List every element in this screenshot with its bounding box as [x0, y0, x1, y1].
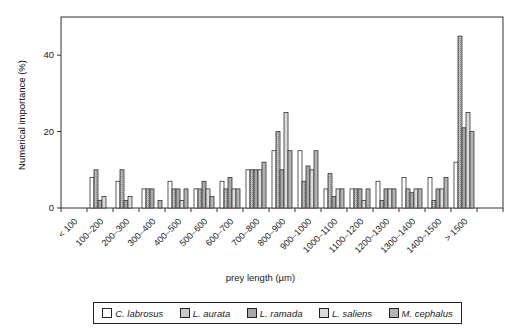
svg-text:0: 0	[49, 202, 54, 213]
bar	[454, 162, 458, 208]
bar	[410, 193, 414, 208]
bar	[358, 189, 362, 208]
legend: C. labrosusL. aurataL. ramadaL. saliensM…	[93, 302, 462, 324]
bar	[236, 189, 240, 208]
bar	[436, 189, 440, 208]
bar	[402, 177, 406, 208]
y-axis-label: Numerical importance (%)	[16, 60, 27, 170]
legend-label: L. aurata	[193, 308, 231, 319]
bar-chart: 02040 < 100100–200200–300300–400400–5005…	[0, 0, 521, 335]
bar	[94, 170, 98, 208]
bar	[150, 189, 154, 208]
bar	[98, 200, 102, 208]
bar	[228, 177, 232, 208]
legend-swatch	[389, 308, 399, 318]
svg-text:> 1500: > 1500	[443, 216, 470, 243]
legend-label: L. saliens	[332, 308, 372, 319]
bar	[298, 151, 302, 208]
bar	[184, 189, 188, 208]
bar	[288, 151, 292, 208]
bar	[198, 189, 202, 208]
bar	[172, 189, 176, 208]
bar	[280, 170, 284, 208]
legend-swatch	[180, 308, 190, 318]
bar	[414, 189, 418, 208]
bar	[142, 189, 146, 208]
bar	[376, 181, 380, 208]
bar	[354, 189, 358, 208]
bar	[384, 189, 388, 208]
bar	[328, 174, 332, 208]
legend-item: L. aurata	[180, 308, 231, 319]
legend-label: C. labrosus	[115, 308, 163, 319]
legend-item: C. labrosus	[102, 308, 163, 319]
bar	[366, 189, 370, 208]
bar	[220, 181, 224, 208]
bar	[462, 128, 466, 208]
bar	[146, 189, 150, 208]
x-axis: < 100100–200200–300300–400400–500500–600…	[56, 208, 503, 255]
legend-swatch	[319, 308, 329, 318]
bar	[210, 197, 214, 208]
legend-swatch	[102, 308, 112, 318]
bar	[262, 162, 266, 208]
bar	[340, 189, 344, 208]
bar	[272, 151, 276, 208]
bar	[246, 170, 250, 208]
bar	[418, 189, 422, 208]
bar	[284, 113, 288, 209]
bar	[310, 170, 314, 208]
bar	[168, 181, 172, 208]
bar	[362, 200, 366, 208]
bar	[180, 200, 184, 208]
bar	[254, 170, 258, 208]
legend-label: L. ramada	[260, 308, 303, 319]
bar	[470, 132, 474, 208]
bar	[250, 170, 254, 208]
bar	[336, 189, 340, 208]
bar	[176, 189, 180, 208]
bar	[120, 170, 124, 208]
legend-label: M. cephalus	[402, 308, 453, 319]
bar	[466, 113, 470, 209]
bar	[406, 189, 410, 208]
bar	[440, 189, 444, 208]
bar	[258, 170, 262, 208]
bar	[332, 197, 336, 208]
bar	[194, 189, 198, 208]
bar	[458, 36, 462, 208]
legend-item: L. ramada	[247, 308, 303, 319]
bar	[276, 132, 280, 208]
bar	[224, 189, 228, 208]
bar	[314, 151, 318, 208]
bar	[102, 197, 106, 208]
bar	[90, 177, 94, 208]
legend-item: L. saliens	[319, 308, 372, 319]
bar	[432, 200, 436, 208]
bar	[306, 166, 310, 208]
bar	[206, 189, 210, 208]
bar	[202, 181, 206, 208]
bar	[302, 181, 306, 208]
bar	[128, 197, 132, 208]
bar	[232, 189, 236, 208]
svg-text:< 100: < 100	[56, 216, 79, 239]
bar	[428, 177, 432, 208]
bar	[444, 177, 448, 208]
bar	[324, 189, 328, 208]
bar	[124, 200, 128, 208]
bar	[392, 189, 396, 208]
x-axis-label: prey length (µm)	[0, 272, 521, 283]
bar	[388, 189, 392, 208]
svg-text:20: 20	[43, 126, 54, 137]
bar	[380, 200, 384, 208]
bar	[116, 181, 120, 208]
legend-swatch	[247, 308, 257, 318]
svg-text:40: 40	[43, 49, 54, 60]
legend-item: M. cephalus	[389, 308, 453, 319]
bar	[350, 189, 354, 208]
bar	[158, 200, 162, 208]
bars	[90, 36, 474, 208]
y-axis: 02040	[43, 49, 61, 213]
